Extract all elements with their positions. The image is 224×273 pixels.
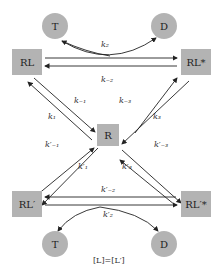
rate-kp2: k′₂: [103, 210, 113, 219]
node-t-bottom: T: [42, 231, 68, 257]
rate-k1: k₁: [48, 112, 56, 121]
node-rl: RL: [12, 49, 42, 75]
rate-kp-1: k′₋₁: [45, 140, 59, 149]
rate-k-3: k₋₃: [119, 96, 131, 105]
rate-k2: k₂: [101, 40, 109, 49]
node-r: R: [97, 124, 119, 146]
node-rl-star: RL*: [181, 49, 211, 75]
footer-equality: [L]=[L′]: [93, 256, 125, 265]
node-rl-prime: RL′: [12, 191, 42, 217]
rate-k3: k₃: [153, 112, 161, 121]
rate-kp1: k′₁: [78, 162, 88, 171]
rate-kp-3: k′₋₃: [154, 140, 168, 149]
rate-k-1: k₋₁: [74, 96, 86, 105]
node-t-top: T: [42, 13, 68, 39]
rate-kp-2: k′₋₂: [101, 185, 115, 194]
node-d-bottom: D: [151, 231, 177, 257]
rate-k-2: k₋₂: [101, 75, 113, 84]
node-rl-prime-star: RL′*: [181, 191, 211, 217]
node-d-top: D: [151, 13, 177, 39]
rate-kp3: k′₃: [122, 162, 132, 171]
